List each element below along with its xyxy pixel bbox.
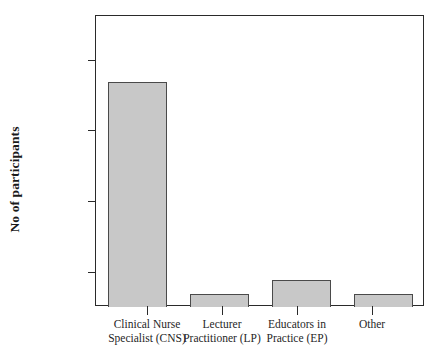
bar-lecturer-practitioner[interactable] (190, 294, 249, 307)
y-axis-title: No of participants (0, 0, 30, 359)
bar-chart-figure: No of participants 40 30 20 10 Clinical … (0, 0, 447, 359)
bar-educators-in-practice[interactable] (272, 280, 331, 307)
x-tick-mark-cns (147, 306, 148, 315)
x-tick-mark-ep (297, 306, 298, 315)
x-tick-mark-lp (222, 306, 223, 315)
bar-clinical-nurse-specialist[interactable] (108, 82, 167, 307)
x-tick-label-other: Other (330, 317, 414, 331)
x-tick-mark-other (372, 306, 373, 315)
plot-area (95, 15, 424, 306)
bar-other[interactable] (354, 294, 413, 307)
